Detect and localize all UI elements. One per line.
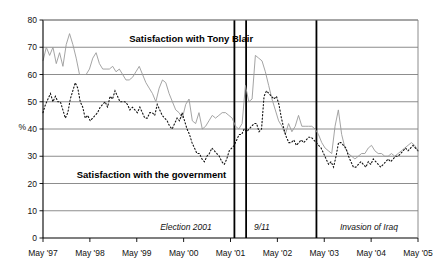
x-axis-labels-group: May '97May '98May '99May '00May '01May '…	[28, 248, 433, 258]
y-axis-label-60: 60	[28, 70, 38, 80]
x-axis-label-8: May '05	[403, 248, 433, 258]
x-axis-label-3: May '00	[169, 248, 199, 258]
event-label-2: Invasion of Iraq	[340, 222, 398, 232]
series-annotation-0: Satisfaction with Tony Blair	[129, 33, 253, 44]
y-axis-label-20: 20	[28, 179, 38, 189]
x-axis-label-2: May '99	[122, 248, 152, 258]
y-axis-label-10: 10	[28, 206, 38, 216]
y-axis-label-70: 70	[28, 42, 38, 52]
x-axis-label-4: May '01	[216, 248, 246, 258]
x-axis-label-5: May '02	[263, 248, 293, 258]
y-axis-labels-group: 01020304050607080	[28, 15, 38, 243]
y-axis-unit-label: %	[18, 122, 26, 132]
series-annotation-1: Satisfaction with the government	[77, 169, 227, 180]
y-axis-label-0: 0	[32, 233, 37, 243]
event-label-0: Election 2001	[160, 222, 212, 232]
y-axis-label-30: 30	[28, 151, 38, 161]
chart-container: 01020304050607080 May '97May '98May '99M…	[0, 0, 443, 273]
x-axis-label-0: May '97	[28, 248, 58, 258]
satisfaction-line-chart: 01020304050607080 May '97May '98May '99M…	[0, 0, 443, 273]
x-axis-label-1: May '98	[75, 248, 105, 258]
event-label-1: 9/11	[254, 222, 270, 232]
y-axis-label-40: 40	[28, 124, 38, 134]
y-axis-label-80: 80	[28, 15, 38, 25]
x-axis-label-6: May '03	[310, 248, 340, 258]
x-axis-label-7: May '04	[356, 248, 386, 258]
y-axis-label-50: 50	[28, 97, 38, 107]
